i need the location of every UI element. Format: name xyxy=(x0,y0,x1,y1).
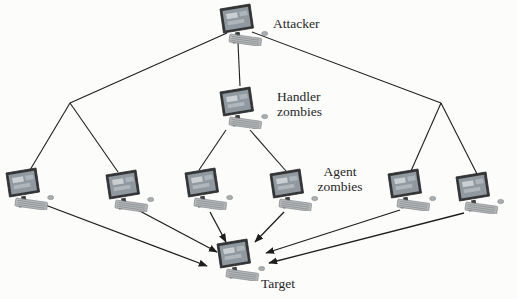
edge-junction-left-to-agent-1 xyxy=(30,103,70,170)
attack-arrow-agent-2-to-target xyxy=(136,209,217,252)
attack-arrow-agent-4-to-target xyxy=(255,212,284,242)
edge-attacker-to-junction-left xyxy=(70,33,227,103)
attacker-label: Attacker xyxy=(273,16,319,31)
edges-layer xyxy=(30,32,477,266)
ddos-attack-diagram: Attacker Handler zombies Agent zombies T… xyxy=(0,0,517,299)
nodes-layer xyxy=(6,4,504,281)
computer-icon-target xyxy=(217,239,265,281)
agent-zombies-label: Agent zombies xyxy=(309,164,371,194)
agent-label-line2: zombies xyxy=(309,179,371,194)
edge-handler-to-agent-4 xyxy=(250,130,286,171)
computer-icon-agent-2 xyxy=(106,170,154,212)
edge-junction-left-to-agent-2 xyxy=(70,103,118,172)
handler-zombies-label: Handler zombies xyxy=(277,89,322,119)
computer-icon-agent-1 xyxy=(6,168,54,210)
computer-icon-attacker xyxy=(220,4,268,46)
computer-icon-agent-3 xyxy=(185,168,233,210)
computer-icon-handler xyxy=(220,87,268,129)
computer-icon-agent-6 xyxy=(456,172,504,214)
edge-handler-to-agent-3 xyxy=(199,130,226,170)
computer-icon-agent-5 xyxy=(388,169,436,211)
diagram-canvas xyxy=(0,0,517,299)
attack-arrow-agent-1-to-target xyxy=(40,203,207,266)
agent-label-line1: Agent xyxy=(309,164,371,179)
handler-label-line2: zombies xyxy=(277,104,322,119)
edge-junction-right-to-agent-5 xyxy=(411,103,441,171)
attack-arrow-agent-3-to-target xyxy=(210,212,226,242)
handler-label-line1: Handler xyxy=(277,89,322,104)
target-label: Target xyxy=(261,276,295,291)
edge-junction-right-to-agent-6 xyxy=(441,103,477,174)
edge-attacker-to-handler xyxy=(238,43,240,86)
